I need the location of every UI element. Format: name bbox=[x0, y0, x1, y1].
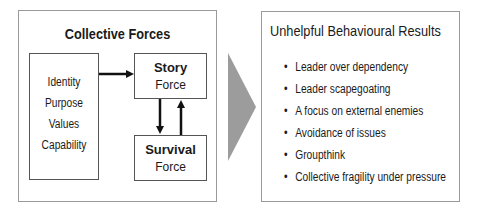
chevron-right-icon bbox=[228, 53, 256, 161]
result-item: Leader over dependency bbox=[284, 56, 446, 78]
result-item: Groupthink bbox=[284, 144, 446, 166]
result-item: Leader scapegoating bbox=[284, 78, 446, 100]
behavioural-results-list: Leader over dependency Leader scapegoati… bbox=[284, 56, 446, 188]
result-item: Collective fragility under pressure bbox=[284, 166, 446, 188]
result-item: Avoidance of issues bbox=[284, 122, 446, 144]
behavioural-results-title: Unhelpful Behavioural Results bbox=[270, 22, 441, 39]
result-item: A focus on external enemies bbox=[284, 100, 446, 122]
